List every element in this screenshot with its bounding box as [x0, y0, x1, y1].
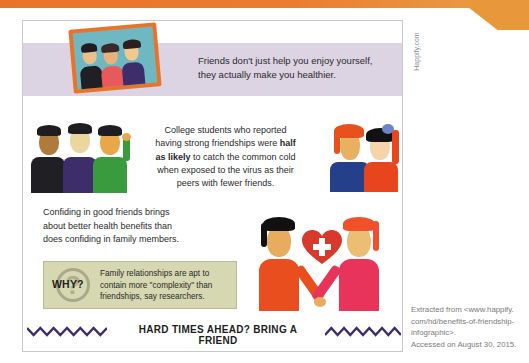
zigzag-wave-icon: [325, 325, 401, 337]
college-stat-text: College students who reported having str…: [138, 124, 313, 190]
why-line-1: Family relationships are apt to: [100, 268, 234, 280]
college-line-5: peers with fewer friends.: [138, 177, 313, 190]
confide-line-2: about better health benefits than: [43, 220, 243, 234]
source-line-2: com/hd/benefits-of-friendship-: [411, 316, 529, 328]
why-callout: ? WHY? Family relationships are apt to c…: [43, 261, 237, 309]
three-friends-icon: [31, 121, 141, 193]
why-line-3: friendships, say researchers.: [100, 291, 234, 303]
intro-line-2: they actually make you healthier.: [198, 68, 373, 82]
confide-line-1: Confiding in good friends brings: [43, 206, 243, 220]
source-line-1: Extracted from <www.happify.: [411, 304, 529, 316]
top-orange-band: [0, 0, 529, 8]
zigzag-wave-icon: [27, 325, 107, 337]
why-line-2: contain more "complexity" than: [100, 280, 234, 292]
intro-text: Friends don't just help you enjoy yourse…: [198, 54, 373, 82]
footer-title: HARD TIMES AHEAD? BRING A FRIEND: [118, 324, 318, 346]
college-line-1: College students who reported: [138, 124, 313, 137]
sick-friend-icon: [328, 116, 403, 192]
source-citation: Extracted from <www.happify. com/hd/bene…: [411, 304, 529, 350]
college-line-2: having strong friendships were: [155, 138, 280, 148]
confide-text: Confiding in good friends brings about b…: [43, 206, 243, 247]
heart-plus-icon: [302, 230, 342, 266]
side-credit-text: Happify.com: [413, 24, 420, 80]
college-bold-as-likely: as likely: [155, 152, 190, 162]
source-line-4: Accessed on August 30, 2015.: [411, 339, 529, 351]
why-text: Family relationships are apt to contain …: [100, 268, 234, 303]
college-line-4: when exposed to the virus as their: [138, 164, 313, 177]
corner-tab: [459, 0, 529, 30]
infographic-frame: Friends don't just help you enjoy yourse…: [22, 20, 403, 352]
why-label: WHY?: [52, 278, 84, 290]
college-bold-half: half: [280, 138, 296, 148]
infographic-page: Friends don't just help you enjoy yourse…: [0, 0, 529, 363]
side-credit: Happify.com: [410, 26, 422, 86]
confide-line-3: does confiding in family members.: [43, 233, 243, 247]
intro-line-1: Friends don't just help you enjoy yourse…: [198, 54, 373, 68]
source-line-3: infographic>.: [411, 327, 529, 339]
college-line-3: to catch the common cold: [190, 152, 295, 162]
group-photo-icon: [68, 22, 161, 93]
